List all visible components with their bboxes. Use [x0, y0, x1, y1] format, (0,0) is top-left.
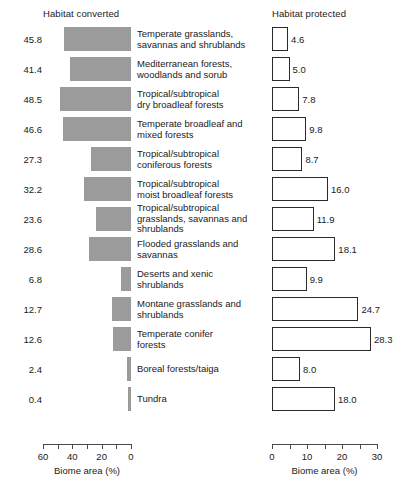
converted-value-label: 2.4 — [29, 364, 42, 375]
converted-value-label: 0.4 — [29, 394, 42, 405]
protected-bar — [272, 147, 302, 171]
biome-label: Temperate grasslands,savannas and shrubl… — [137, 29, 267, 50]
biome-label-line: Tropical/subtropical — [137, 89, 267, 100]
biome-label-line: mixed forests — [137, 129, 267, 140]
protected-tick — [307, 444, 308, 449]
biome-label-line: coniferous forests — [137, 159, 267, 170]
converted-value-label: 45.8 — [24, 34, 43, 45]
converted-bar — [89, 237, 131, 261]
converted-value-label: 32.2 — [24, 184, 43, 195]
biome-label-line: Flooded grasslands and — [137, 239, 267, 250]
biome-habitat-chart: Habitat converted Habitat protected 45.8… — [0, 0, 400, 492]
converted-bar — [112, 297, 131, 321]
protected-bar — [272, 27, 288, 51]
chart-row: 0.4Tundra18.0 — [0, 384, 400, 414]
protected-value-label: 28.3 — [374, 334, 393, 345]
converted-value-label: 23.6 — [24, 214, 43, 225]
biome-label-line: savannas — [137, 249, 267, 260]
biome-label-line: forests — [137, 339, 267, 350]
converted-value-wrap: 28.6 — [0, 234, 42, 264]
converted-bar — [64, 27, 131, 51]
biome-label: Mediterranean forests,woodlands and soru… — [137, 59, 267, 80]
converted-bar — [70, 57, 131, 81]
chart-row: 32.2Tropical/subtropicalmoist broadleaf … — [0, 174, 400, 204]
converted-value-label: 12.7 — [24, 304, 43, 315]
converted-value-wrap: 23.6 — [0, 204, 42, 234]
biome-label: Tundra — [137, 394, 267, 405]
converted-tick-label: 0 — [128, 451, 133, 462]
protected-axis-title: Biome area (%) — [292, 465, 358, 476]
protected-tick-label: 0 — [269, 451, 274, 462]
biome-label: Montane grasslands andshrublands — [137, 299, 267, 320]
protected-tick — [342, 444, 343, 449]
converted-value-wrap: 32.2 — [0, 174, 42, 204]
protected-value-label: 24.7 — [361, 304, 380, 315]
protected-bar — [272, 357, 300, 381]
protected-bar — [272, 117, 306, 141]
biome-label: Temperate broadleaf andmixed forests — [137, 119, 267, 140]
converted-value-wrap: 12.7 — [0, 294, 42, 324]
converted-tick-label: 40 — [67, 451, 78, 462]
protected-tick-label: 10 — [302, 451, 313, 462]
converted-value-wrap: 46.6 — [0, 114, 42, 144]
biome-label-line: Tropical/subtropical — [137, 149, 267, 160]
biome-label-line: woodlands and sorub — [137, 69, 267, 80]
axis-protected: 0102030Biome area (%) — [272, 444, 377, 484]
converted-bar — [128, 387, 131, 411]
biome-label-line: Temperate conifer — [137, 329, 267, 340]
protected-bar — [272, 177, 328, 201]
protected-value-label: 11.9 — [317, 214, 335, 225]
chart-rows: 45.8Temperate grasslands,savannas and sh… — [0, 24, 400, 414]
chart-row: 12.7Montane grasslands andshrublands24.7 — [0, 294, 400, 324]
converted-axis-title: Biome area (%) — [54, 465, 120, 476]
protected-tick — [377, 444, 378, 449]
protected-value-label: 8.0 — [303, 364, 316, 375]
protected-value-label: 7.8 — [302, 94, 315, 105]
protected-tick-label: 30 — [372, 451, 383, 462]
protected-bar — [272, 237, 335, 261]
converted-value-label: 6.8 — [29, 274, 42, 285]
chart-row: 2.4Boreal forests/taiga8.0 — [0, 354, 400, 384]
biome-label-line: Mediterranean forests, — [137, 59, 267, 70]
converted-value-label: 46.6 — [24, 124, 43, 135]
protected-tick — [325, 444, 326, 449]
converted-tick-label: 60 — [38, 451, 49, 462]
converted-value-label: 12.6 — [24, 334, 43, 345]
biome-label: Deserts and xenicshrublands — [137, 269, 267, 290]
converted-tick — [131, 444, 132, 449]
converted-value-wrap: 12.6 — [0, 324, 42, 354]
protected-value-label: 9.9 — [310, 274, 323, 285]
converted-bar — [84, 177, 131, 201]
converted-value-wrap: 45.8 — [0, 24, 42, 54]
protected-value-label: 18.1 — [338, 244, 357, 255]
converted-tick — [87, 444, 88, 449]
converted-bar — [63, 117, 131, 141]
biome-label: Flooded grasslands andsavannas — [137, 239, 267, 260]
biome-label: Temperate coniferforests — [137, 329, 267, 350]
chart-row: 12.6Temperate coniferforests28.3 — [0, 324, 400, 354]
protected-value-label: 16.0 — [331, 184, 350, 195]
chart-row: 27.3Tropical/subtropicalconiferous fores… — [0, 144, 400, 174]
converted-value-wrap: 6.8 — [0, 264, 42, 294]
converted-value-label: 41.4 — [24, 64, 43, 75]
chart-row: 46.6Temperate broadleaf andmixed forests… — [0, 114, 400, 144]
biome-label: Boreal forests/taiga — [137, 364, 267, 375]
protected-bar — [272, 57, 290, 81]
biome-label-line: Boreal forests/taiga — [137, 364, 267, 375]
converted-value-wrap: 27.3 — [0, 144, 42, 174]
protected-value-label: 18.0 — [338, 394, 357, 405]
protected-tick — [272, 444, 273, 449]
converted-bar — [96, 207, 131, 231]
converted-tick — [116, 444, 117, 449]
converted-value-wrap: 2.4 — [0, 354, 42, 384]
converted-value-wrap: 0.4 — [0, 384, 42, 414]
protected-value-label: 4.6 — [291, 34, 304, 45]
protected-tick — [360, 444, 361, 449]
biome-label-line: shrublands — [137, 279, 267, 290]
chart-row: 48.5Tropical/subtropicaldry broadleaf fo… — [0, 84, 400, 114]
biome-label-line: dry broadleaf forests — [137, 99, 267, 110]
converted-bar — [60, 87, 131, 111]
panel-header-protected: Habitat protected — [272, 8, 346, 19]
converted-value-wrap: 48.5 — [0, 84, 42, 114]
biome-label: Tropical/subtropicaldry broadleaf forest… — [137, 89, 267, 110]
